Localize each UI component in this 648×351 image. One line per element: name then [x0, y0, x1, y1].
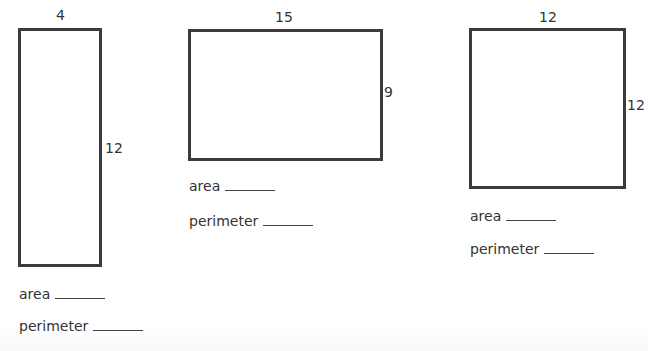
rectangle-1-width-label: 4	[56, 7, 65, 23]
rectangle-3-height-label: 12	[627, 97, 645, 113]
rectangle-1	[18, 28, 102, 267]
area-label: area	[19, 286, 50, 302]
area-label: area	[470, 208, 501, 224]
rectangle-1-perimeter-answer-blank[interactable]	[93, 329, 143, 331]
rectangle-3-perimeter-row: perimeter	[470, 241, 594, 257]
rectangle-1-area-answer-blank[interactable]	[55, 297, 105, 299]
rectangle-3	[469, 28, 626, 189]
rectangle-2-height-label: 9	[384, 84, 393, 100]
perimeter-label: perimeter	[19, 318, 88, 334]
rectangle-1-area-row: area	[19, 286, 105, 302]
rectangle-2-area-answer-blank[interactable]	[225, 189, 275, 191]
rectangle-3-width-label: 12	[539, 9, 557, 25]
rectangle-2-perimeter-row: perimeter	[189, 213, 313, 229]
rectangle-3-area-row: area	[470, 208, 556, 224]
rectangle-2-perimeter-answer-blank[interactable]	[263, 224, 313, 226]
perimeter-label: perimeter	[470, 241, 539, 257]
area-label: area	[189, 178, 220, 194]
perimeter-label: perimeter	[189, 213, 258, 229]
rectangle-3-perimeter-answer-blank[interactable]	[544, 252, 594, 254]
rectangle-3-area-answer-blank[interactable]	[506, 219, 556, 221]
rectangle-2-area-row: area	[189, 178, 275, 194]
rectangle-1-perimeter-row: perimeter	[19, 318, 143, 334]
rectangle-2-width-label: 15	[275, 9, 293, 25]
rectangle-1-height-label: 12	[105, 140, 123, 156]
rectangle-2	[188, 29, 383, 161]
